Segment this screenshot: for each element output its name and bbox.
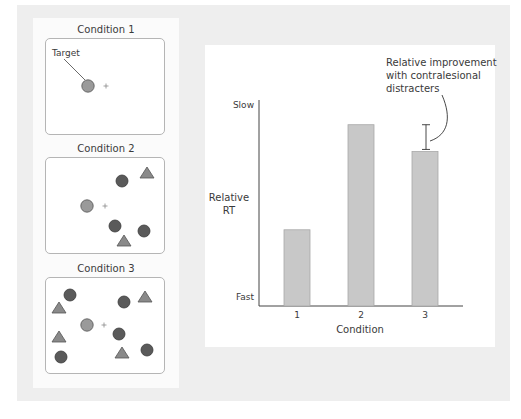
y-top-label: Slow [233,100,254,110]
y-axis-label-line1: Relative [209,192,249,203]
distracter-circle-icon [109,220,121,232]
distracter-triangle-icon [52,302,66,313]
distracter-circle-icon [118,296,130,308]
distracter-triangle-icon [115,347,129,358]
distracter-circle-icon [116,175,128,187]
target-pointer-line [64,59,85,80]
y-bottom-label: Fast [236,292,255,302]
annotation-line-2: with contralesional [386,70,481,81]
improvement-error-bar [422,125,430,150]
distracter-circle-icon [138,225,150,237]
distracter-circle-icon [113,328,125,340]
x-tick-2: 2 [358,310,364,320]
target-circle-icon [82,80,94,92]
distracter-triangle-icon [140,167,154,178]
fixation-cross-icon [104,84,109,89]
target-label: Target [51,48,80,58]
distracter-circle-icon [141,344,153,356]
fixation-cross-icon [102,323,107,328]
x-tick-3: 3 [422,310,428,320]
bar-condition-1 [284,230,310,306]
distracter-circle-icon [64,289,76,301]
fixation-cross-icon [103,204,108,209]
y-axis-label-line2: RT [223,205,236,216]
distracter-circle-icon [55,351,67,363]
bar-condition-3 [412,152,438,307]
distracter-triangle-icon [138,291,152,302]
target-circle-icon [81,200,93,212]
figure-graphics: Target Slow Fast Relative RT 1 2 3 Condi… [0,0,521,419]
distracter-triangle-icon [117,235,131,246]
bars-group [284,125,438,306]
x-axis-label: Condition [336,324,384,335]
x-tick-1: 1 [294,310,300,320]
annotation-line-3: distracters [386,83,439,94]
annotation-line-1: Relative improvement [386,57,497,68]
annotation-callout-line [430,95,447,141]
bar-condition-2 [348,125,374,306]
distracter-triangle-icon [52,331,66,342]
stimuli-group [52,80,154,363]
target-circle-icon [81,319,93,331]
